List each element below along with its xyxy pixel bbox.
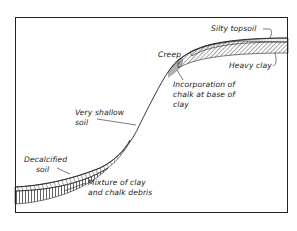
label-mixture-1: Mixture of clay — [88, 178, 146, 187]
label-silty-topsoil: Silty topsoil — [211, 24, 257, 33]
leader-heavy-clay — [273, 53, 276, 66]
label-decalcified-2: soil — [36, 165, 50, 174]
label-creep: Creep — [158, 50, 181, 59]
label-heavy-clay: Heavy clay — [229, 61, 272, 70]
soil-profile-diagram: Silty topsoil Heavy clay Creep Incorpora… — [0, 0, 297, 231]
leader-very-shallow — [97, 119, 136, 125]
creep-zone — [168, 57, 183, 78]
label-mixture-2: and chalk debris — [88, 188, 152, 197]
leader-incorporation — [177, 70, 183, 80]
leader-silty-topsoil — [263, 29, 272, 38]
label-very-shallow-2: soil — [75, 118, 89, 127]
label-very-shallow-1: Very shallow — [75, 108, 125, 117]
label-incorporation-3: clay — [173, 100, 189, 109]
label-incorporation-1: Incorporation of — [173, 80, 236, 89]
label-incorporation-2: chalk at base of — [173, 90, 236, 99]
leader-decalcified — [57, 168, 70, 174]
label-decalcified-1: Decalcified — [24, 155, 67, 164]
